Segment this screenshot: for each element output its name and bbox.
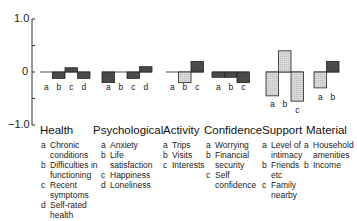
legend-key: a bbox=[41, 140, 50, 160]
legend-key: d bbox=[101, 180, 110, 190]
legend-text: Self confidence bbox=[215, 170, 256, 190]
bar-support-a bbox=[266, 72, 279, 96]
legend-text: Self-rated health bbox=[50, 200, 87, 220]
bar-confidence-c bbox=[237, 72, 250, 83]
y-axis-label-bottom: −1.0 bbox=[8, 118, 30, 130]
legend-text: Household amenities bbox=[313, 140, 354, 160]
legend-text: Level of intimacy bbox=[271, 140, 302, 160]
bar-confidence-b bbox=[225, 72, 238, 77]
legend-text: Income bbox=[313, 160, 341, 170]
legend-key: b bbox=[262, 160, 271, 180]
bar-health-b bbox=[53, 72, 66, 78]
bar-category-label: a bbox=[44, 82, 49, 92]
legend-key: b bbox=[163, 150, 172, 160]
legend-key: b bbox=[304, 160, 313, 170]
bar-health-d bbox=[78, 72, 91, 78]
bar-category-label: c bbox=[195, 82, 199, 92]
legend-item: cFamily nearby bbox=[262, 180, 302, 200]
legend-key: c bbox=[206, 170, 215, 190]
legend-item: cInterests bbox=[163, 160, 205, 170]
group-title-confidence: Confidence bbox=[204, 124, 262, 136]
legend-item: bLife satisfaction bbox=[101, 150, 153, 170]
group-title-health: Health bbox=[40, 124, 73, 136]
legend-activity: aTripsbVisitscInterests bbox=[163, 140, 205, 170]
bar-category-label: c bbox=[69, 82, 73, 92]
bar-support-b bbox=[279, 51, 292, 72]
legend-text: Interests bbox=[172, 160, 205, 170]
bar-category-label: c bbox=[241, 82, 245, 92]
legend-item: aLevel of intimacy bbox=[262, 140, 302, 160]
legend-text: Worrying bbox=[215, 140, 249, 150]
legend-key: a bbox=[304, 140, 313, 160]
legend-item: bFriends etc bbox=[262, 160, 302, 180]
legend-text: Family nearby bbox=[271, 180, 297, 200]
legend-text: Life satisfaction bbox=[110, 150, 153, 170]
legend-psychological: aAnxietybLife satisfactioncHappinessdLon… bbox=[101, 140, 153, 190]
legend-text: Happiness bbox=[110, 170, 150, 180]
y-axis-label-top: 1.0 bbox=[14, 12, 29, 24]
bar-activity-c bbox=[191, 61, 204, 72]
bar-confidence-a bbox=[212, 72, 225, 77]
bar-material-b bbox=[327, 61, 340, 72]
legend-key: a bbox=[163, 140, 172, 150]
legend-key: a bbox=[101, 140, 110, 150]
group-title-activity: Activity bbox=[163, 124, 199, 136]
legend-key: a bbox=[206, 140, 215, 150]
bar-activity-b bbox=[179, 72, 192, 83]
bar-category-label: a bbox=[106, 82, 111, 92]
legend-support: aLevel of intimacybFriends etccFamily ne… bbox=[262, 140, 302, 200]
bar-health-c bbox=[65, 68, 78, 72]
legend-key: b bbox=[206, 150, 215, 170]
bar-category-label: b bbox=[330, 92, 335, 102]
bar-category-label: b bbox=[56, 82, 61, 92]
legend-text: Visits bbox=[172, 150, 192, 160]
legend-item: aChronic conditions bbox=[41, 140, 98, 160]
legend-item: dSelf-rated health bbox=[41, 200, 98, 220]
bar-psychological-d bbox=[140, 67, 153, 72]
legend-text: Loneliness bbox=[110, 180, 151, 190]
legend-item: aWorrying bbox=[206, 140, 256, 150]
bar-psychological-a bbox=[102, 72, 115, 83]
group-title-support: Support bbox=[262, 124, 302, 136]
bar-category-label: a bbox=[170, 82, 175, 92]
bar-category-label: b bbox=[118, 82, 123, 92]
legend-item: cRecent symptoms bbox=[41, 180, 98, 200]
legend-text: Chronic conditions bbox=[50, 140, 88, 160]
bar-material-a bbox=[314, 72, 327, 88]
bar-category-label: c bbox=[295, 105, 299, 115]
group-title-psychological: Psychological bbox=[93, 124, 163, 136]
bar-category-label: c bbox=[131, 82, 135, 92]
legend-item: aAnxiety bbox=[101, 140, 153, 150]
legend-key: c bbox=[163, 160, 172, 170]
legend-item: bIncome bbox=[304, 160, 354, 170]
bar-support-c bbox=[291, 72, 304, 101]
bar-category-label: b bbox=[228, 82, 233, 92]
legend-key: c bbox=[41, 180, 50, 200]
legend-text: Friends etc bbox=[271, 160, 299, 180]
legend-key: c bbox=[101, 170, 110, 180]
legend-text: Financial security bbox=[215, 150, 249, 170]
legend-text: Recent symptoms bbox=[50, 180, 89, 200]
legend-key: b bbox=[101, 150, 110, 170]
legend-item: cSelf confidence bbox=[206, 170, 256, 190]
legend-item: aHousehold amenities bbox=[304, 140, 354, 160]
bar-category-label: d bbox=[143, 82, 148, 92]
legend-item: bVisits bbox=[163, 150, 205, 160]
legend-text: Trips bbox=[172, 140, 191, 150]
legend-item: dLoneliness bbox=[101, 180, 153, 190]
legend-health: aChronic conditionsbDifficulties in func… bbox=[41, 140, 98, 220]
legend-key: a bbox=[262, 140, 271, 160]
bar-psychological-c bbox=[127, 72, 140, 78]
legend-text: Difficulties in functioning bbox=[50, 160, 98, 180]
legend-key: b bbox=[41, 160, 50, 180]
group-title-material: Material bbox=[306, 124, 347, 136]
bar-category-label: b bbox=[282, 99, 287, 109]
bar-category-label: a bbox=[318, 92, 323, 102]
legend-confidence: aWorryingbFinancial securitycSelf confid… bbox=[206, 140, 256, 190]
legend-item: aTrips bbox=[163, 140, 205, 150]
y-axis-label-zero: 0 bbox=[22, 65, 28, 77]
bar-category-label: d bbox=[81, 82, 86, 92]
bar-category-label: a bbox=[270, 99, 275, 109]
legend-key: c bbox=[262, 180, 271, 200]
legend-key: d bbox=[41, 200, 50, 220]
